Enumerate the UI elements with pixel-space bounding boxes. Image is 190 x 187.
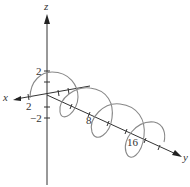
x-axis-label: x bbox=[2, 91, 8, 103]
z-axis bbox=[44, 14, 50, 185]
y-arrow-icon bbox=[172, 150, 182, 157]
z-arrow-icon bbox=[44, 14, 50, 24]
x-tick-2: 2 bbox=[26, 100, 32, 112]
y-tick-16: 16 bbox=[127, 136, 139, 148]
z-tick-2: 2 bbox=[36, 65, 42, 77]
x-arrow-icon bbox=[13, 96, 21, 101]
helix-diagram: z x y 2 2 −2 8 16 bbox=[0, 0, 190, 187]
y-tick-8: 8 bbox=[86, 114, 92, 126]
z-tick-neg2: −2 bbox=[30, 112, 42, 124]
helix-curve bbox=[30, 72, 165, 157]
y-axis-label: y bbox=[182, 151, 188, 163]
z-axis-label: z bbox=[43, 0, 49, 12]
